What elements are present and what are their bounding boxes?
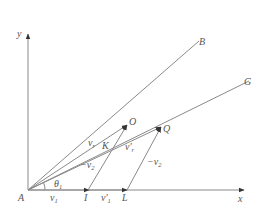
line-AG xyxy=(28,81,249,190)
point-L-label: L xyxy=(121,192,128,203)
point-A-label: A xyxy=(17,192,25,203)
label-neg-v2-left: −v2 xyxy=(80,159,95,171)
velocity-vector-diagram: y x A B G O Q K I L vr v'r −v2 −v2 v1 v'… xyxy=(0,0,269,214)
x-axis-label: x xyxy=(237,193,243,204)
label-vr: vr xyxy=(88,137,95,149)
line-AB xyxy=(28,41,199,190)
point-B-label: B xyxy=(199,36,205,47)
vector-AQ xyxy=(28,127,161,190)
label-vr-prime: v'r xyxy=(125,141,135,153)
label-neg-v2-right: −v2 xyxy=(147,156,162,168)
label-theta1: θ1 xyxy=(54,178,62,190)
point-K-label: K xyxy=(101,140,110,151)
angle-arc-theta1 xyxy=(44,183,46,191)
point-Q-label: Q xyxy=(163,123,171,134)
y-axis-label: y xyxy=(16,28,22,39)
label-v1: v1 xyxy=(50,192,58,204)
point-O-label: O xyxy=(129,116,136,127)
point-G-label: G xyxy=(244,76,251,87)
vector-AO xyxy=(28,125,127,190)
label-v1-prime: v'1 xyxy=(101,192,111,204)
point-I-label: I xyxy=(83,192,88,203)
